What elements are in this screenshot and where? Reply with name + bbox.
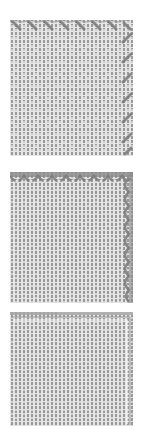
scalloped-edging-icon: [10, 172, 133, 303]
chart-swatch-1: [10, 20, 133, 156]
cross-stitch-edging-icon: [10, 20, 133, 156]
outline-edging-icon: [10, 312, 133, 426]
chart-swatch-2: [10, 172, 133, 303]
chart-swatch-3: [10, 312, 133, 426]
